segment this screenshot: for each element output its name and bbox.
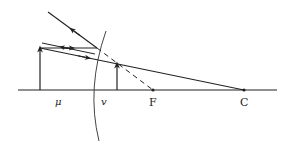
- label-focus: F: [149, 96, 157, 109]
- label-center: C: [240, 96, 248, 109]
- center-point: [242, 88, 245, 91]
- focus-point: [151, 88, 154, 91]
- center-ray-arrow-in-icon: [78, 56, 88, 58]
- ray-diagram: μ v F C: [0, 0, 295, 150]
- label-object-distance: μ: [55, 96, 62, 107]
- label-image-distance: v: [101, 96, 107, 107]
- center-ray: [40, 48, 244, 90]
- reflected-ray-arrow-icon: [72, 30, 80, 36]
